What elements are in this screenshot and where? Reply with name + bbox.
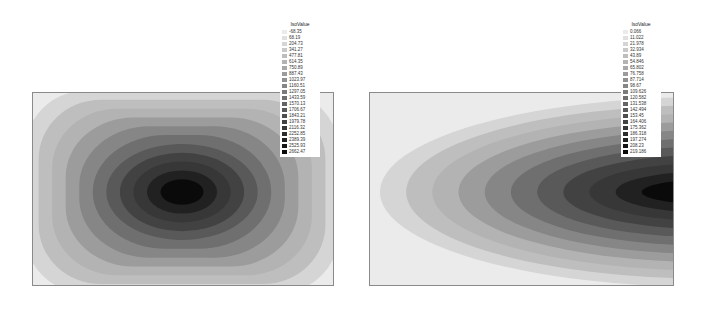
legend-swatch <box>282 54 287 59</box>
legend-swatch <box>623 30 628 35</box>
legend-swatch <box>623 108 628 113</box>
legend-swatch <box>623 150 628 155</box>
legend-swatch <box>282 60 287 65</box>
legend-swatch <box>282 48 287 53</box>
legend-swatch <box>282 36 287 41</box>
legend-label: 2662.47 <box>289 149 305 155</box>
legend-swatch <box>623 144 628 149</box>
legend-swatch <box>282 96 287 101</box>
legend-title: IsoValue <box>282 20 318 29</box>
legend-left: IsoValue -68.3568.19204.73341.27477.8161… <box>280 18 320 157</box>
legend-swatch <box>623 126 628 131</box>
legend-swatch <box>623 54 628 59</box>
legend-swatch <box>623 132 628 137</box>
legend-label: 219.186 <box>630 149 646 155</box>
legend-swatch <box>282 90 287 95</box>
legend-swatch <box>282 144 287 149</box>
legend-swatch <box>623 114 628 119</box>
legend-swatch <box>282 108 287 113</box>
legend-swatch <box>282 30 287 35</box>
legend-swatch <box>623 66 628 71</box>
legend-swatch <box>623 138 628 143</box>
legend-swatch <box>623 48 628 53</box>
legend-swatch <box>623 60 628 65</box>
legend-swatch <box>623 90 628 95</box>
legend-swatch <box>623 72 628 77</box>
legend-swatch <box>282 132 287 137</box>
legend-swatch <box>282 42 287 47</box>
legend-swatch <box>623 96 628 101</box>
legend-swatch <box>282 72 287 77</box>
legend-swatch <box>282 120 287 125</box>
legend-swatch <box>623 102 628 107</box>
legend-right: IsoValue 0.06611.02221.97832.93443.8954.… <box>621 18 661 157</box>
legend-entry: 2662.47 <box>282 149 318 155</box>
legend-swatch <box>282 126 287 131</box>
legend-swatch <box>282 150 287 155</box>
legend-swatch <box>623 36 628 41</box>
legend-entries: -68.3568.19204.73341.27477.81614.35750.8… <box>282 29 318 155</box>
legend-entries: 0.06611.02221.97832.93443.8954.84665.802… <box>623 29 659 155</box>
legend-swatch <box>282 78 287 83</box>
legend-swatch <box>623 120 628 125</box>
legend-title: IsoValue <box>623 20 659 29</box>
legend-swatch <box>282 66 287 71</box>
legend-swatch <box>623 84 628 89</box>
legend-swatch <box>282 138 287 143</box>
legend-swatch <box>623 42 628 47</box>
legend-entry: 219.186 <box>623 149 659 155</box>
legend-swatch <box>623 78 628 83</box>
legend-swatch <box>282 114 287 119</box>
legend-swatch <box>282 102 287 107</box>
legend-swatch <box>282 84 287 89</box>
